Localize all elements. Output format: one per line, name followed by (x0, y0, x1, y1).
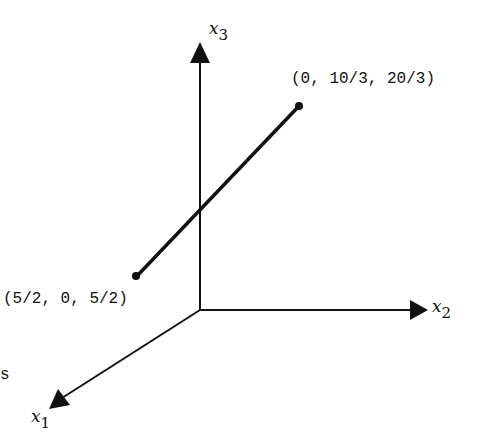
x1-name: x (31, 406, 41, 426)
x2-axis-label: x2 (432, 296, 451, 322)
stray-text: s (0, 366, 10, 384)
x2-subscript: 2 (442, 304, 452, 322)
x1-axis-label: x1 (31, 406, 50, 432)
endpoint-top-dot-icon (295, 102, 303, 110)
axes-diagram (0, 0, 487, 442)
endpoint-bottom-dot-icon (132, 272, 140, 280)
point-label-top: (0, 10/3, 20/3) (291, 70, 435, 88)
x1-axis (62, 310, 200, 398)
x3-arrowhead-icon (190, 42, 210, 63)
line-segment (137, 106, 299, 276)
x3-name: x (209, 18, 219, 38)
x1-subscript: 1 (41, 414, 51, 432)
x2-arrowhead-icon (410, 300, 428, 320)
x3-subscript: 3 (219, 26, 229, 44)
x3-axis-label: x3 (209, 18, 228, 44)
x1-arrowhead-icon (49, 389, 70, 409)
x2-name: x (432, 296, 442, 316)
point-label-bottom: (5/2, 0, 5/2) (3, 290, 128, 308)
